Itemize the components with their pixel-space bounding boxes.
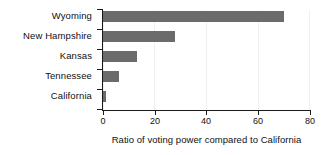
category-label-new-hampshire: New Hampshire [0,30,92,41]
x-tick-40 [206,111,207,115]
x-tick-0 [103,111,104,115]
category-label-kansas: Kansas [0,50,92,61]
bar-tennessee [103,71,119,82]
x-tick-label-20: 20 [150,116,160,127]
category-axis-labels: Wyoming New Hampshire Kansas Tennessee C… [0,10,92,110]
x-tick-label-0: 0 [100,116,105,127]
y-tick-3 [97,69,102,70]
y-tick-4 [97,89,102,90]
x-tick-label-60: 60 [253,116,263,127]
gridline-60 [258,10,259,110]
x-tick-label-40: 40 [201,116,211,127]
x-tick-60 [258,111,259,115]
bar-new-hampshire [103,31,175,42]
y-tick-5 [97,109,102,110]
gridline-40 [206,10,207,110]
y-tick-1 [97,29,102,30]
category-label-california: California [0,90,92,101]
x-tick-20 [155,111,156,115]
category-label-tennessee: Tennessee [0,70,92,81]
bar-kansas [103,51,137,62]
y-tick-0 [97,9,102,10]
x-axis-title: Ratio of voting power compared to Califo… [103,134,310,146]
x-tick-80 [310,111,311,115]
y-tick-2 [97,49,102,50]
category-label-wyoming: Wyoming [0,10,92,21]
gridline-80 [309,10,310,110]
plot-area [103,10,310,110]
bar-california [103,91,106,102]
bar-chart: Wyoming New Hampshire Kansas Tennessee C… [0,0,331,155]
y-axis-line [102,9,103,111]
bar-wyoming [103,11,284,22]
x-tick-label-80: 80 [305,116,315,127]
gridline-20 [154,10,155,110]
